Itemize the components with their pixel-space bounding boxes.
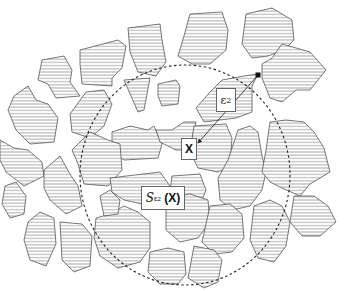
point-x-text: X [185, 142, 193, 156]
diagram-canvas [0, 0, 350, 291]
grain-29 [148, 248, 186, 284]
sphere-sub-index: 2 [158, 196, 161, 202]
grain-5 [38, 56, 80, 98]
epsilon-label: ε2 [216, 88, 236, 112]
sphere-argument: (X) [164, 191, 180, 205]
grain-27 [250, 200, 290, 262]
grain-22 [24, 212, 56, 266]
grain-16 [0, 140, 44, 186]
epsilon-subscript: 2 [226, 96, 231, 105]
porous-medium-diagram: ε2 X Sε2 (X) [0, 0, 350, 291]
point-x-label: X [181, 138, 197, 160]
grain-31 [2, 182, 26, 218]
grain-28 [290, 196, 336, 236]
sphere-symbol: S [146, 191, 154, 205]
grain-group [0, 8, 336, 288]
radius-endpoint-marker [256, 73, 261, 78]
grain-3 [178, 12, 228, 64]
grain-7 [158, 80, 180, 106]
grain-1 [80, 40, 126, 86]
grain-20 [262, 120, 330, 196]
grain-23 [60, 222, 92, 272]
grain-24 [94, 206, 150, 268]
grain-9 [70, 90, 112, 138]
grain-8 [8, 86, 58, 144]
grain-17 [44, 156, 82, 214]
sphere-label: Sε2 (X) [141, 186, 185, 210]
